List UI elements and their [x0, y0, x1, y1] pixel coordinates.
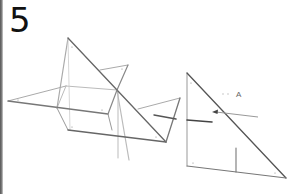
assembled-figure [8, 38, 180, 160]
label-a: A [236, 90, 242, 99]
triangle-piece [187, 73, 286, 178]
label-a-indicator: A [222, 90, 242, 99]
assembly-diagram: A [0, 0, 291, 194]
arrow-icon [212, 110, 258, 118]
